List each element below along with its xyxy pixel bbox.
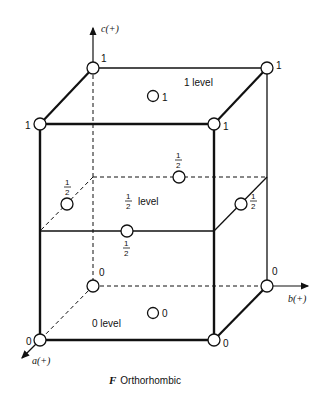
atom-bottom-face [148,308,159,319]
level-top-label: 1 level [184,77,213,88]
fraction-left: 1 2 [64,178,71,197]
atom-front-face [121,225,133,237]
label-front-bottom-left: 0 [26,336,32,347]
f-orthorhombic-diagram: c(+) b(+) a(+) 1 1 1 1 0 0 0 0 1 0 1 2 1… [0,0,327,402]
svg-text:1: 1 [124,239,129,248]
atom-front-bottom-left [34,334,46,346]
svg-text:level: level [138,196,159,207]
label-back-bottom-left: 0 [99,267,105,278]
fraction-right: 1 2 [250,192,257,211]
atom-back-top-left [87,62,99,74]
label-front-top-right: 1 [223,121,229,132]
atom-back-face [173,171,185,183]
atom-front-top-left [34,118,46,130]
c-axis-label: c(+) [101,23,120,35]
atom-back-bottom-right [261,280,273,292]
atom-top-face [148,91,159,102]
label-bottom-face: 0 [162,308,168,319]
level-middle-label: 1 2 level [125,192,159,211]
svg-text:2: 2 [124,249,129,258]
atom-front-bottom-right [208,334,220,346]
svg-text:1: 1 [176,151,181,160]
atom-back-top-right [261,62,273,74]
atom-back-bottom-left [87,280,99,292]
label-front-top-left: 1 [25,120,31,131]
label-back-top-left: 1 [101,53,107,64]
svg-text:1: 1 [65,178,70,187]
atom-right-face [235,198,247,210]
label-front-bottom-right: 0 [223,338,229,349]
label-back-bottom-right: 0 [272,266,278,277]
svg-text:1: 1 [126,192,131,201]
fraction-back: 1 2 [175,151,182,170]
svg-text:2: 2 [126,202,131,211]
level-bottom-label: 0 level [92,318,121,329]
svg-text:1: 1 [251,192,256,201]
caption: FOrthorhombic [108,374,181,386]
svg-text:2: 2 [176,161,181,170]
svg-text:2: 2 [251,202,256,211]
label-back-top-right: 1 [276,60,282,71]
svg-text:2: 2 [65,188,70,197]
atom-left-face [61,198,73,210]
label-top-face: 1 [162,92,168,103]
b-axis-label: b(+) [288,293,307,305]
atom-front-top-right [208,118,220,130]
a-axis-label: a(+) [32,355,51,367]
fraction-front: 1 2 [123,239,130,258]
